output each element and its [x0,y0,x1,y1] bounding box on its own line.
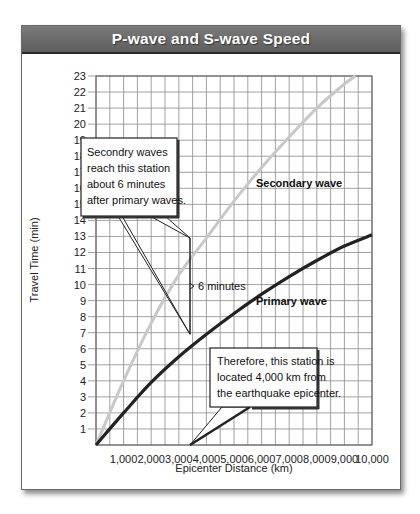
y-axis-label: Travel Time (min) [28,217,40,302]
y-tick-label: 9 [80,295,86,307]
y-tick-label: 20 [74,118,86,130]
x-tick-label: 9,000 [331,453,359,465]
y-tick-label: 3 [80,391,86,403]
y-axis-ticks: 1234567891011121314151617181920212223 [74,70,96,435]
six-minutes-label: 6 minutes [198,280,246,292]
x-tick-label: 2,000 [137,453,165,465]
callout-text-line: Secondry waves [87,146,168,158]
y-tick-label: 10 [74,279,86,291]
y-tick-label: 11 [75,263,86,275]
x-axis-label: Epicenter Distance (km) [175,462,292,474]
y-tick-label: 5 [80,359,86,371]
callout-text-line: located 4,000 km from [217,371,326,383]
callout-text-line: Therefore, this station is [217,355,335,367]
y-tick-label: 2 [80,407,86,419]
chart-plot: 1234567891011121314151617181920212223 1,… [0,0,420,514]
primary-wave-label: Primary wave [256,295,327,307]
y-tick-label: 21 [74,102,86,114]
y-tick-label: 6 [80,343,86,355]
y-tick-label: 4 [80,375,86,387]
callout-text-line: reach this station [87,162,170,174]
y-tick-label: 23 [74,70,86,82]
secondary-wave-label: Secondary wave [256,177,342,189]
x-tick-label: 8,000 [303,453,331,465]
x-tick-label: 10,000 [355,453,389,465]
x-tick-label: 1,000 [110,453,138,465]
y-tick-label: 22 [74,86,86,98]
callout-text-line: after primary waves. [87,194,186,206]
y-tick-label: 7 [80,327,86,339]
callout-text-line: the earthquake epicenter. [217,387,341,399]
callout-distance-conclusion: Therefore, this station islocated 4,000 … [190,348,341,445]
y-tick-label: 12 [74,246,86,258]
callout-text-line: about 6 minutes [87,178,166,190]
y-tick-label: 1 [80,423,86,435]
y-tick-label: 13 [74,230,86,242]
y-tick-label: 8 [80,311,86,323]
